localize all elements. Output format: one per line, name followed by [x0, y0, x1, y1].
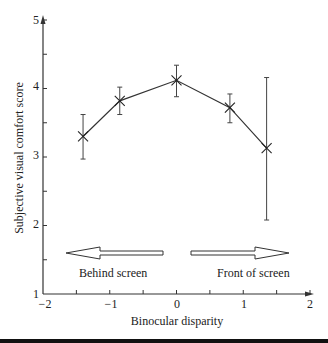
y-tick-label: 3 [33, 148, 39, 162]
data-series [78, 65, 272, 220]
x-tick-label: −1 [105, 297, 118, 311]
series-line [83, 80, 267, 148]
direction-annotations [66, 247, 289, 259]
x-tick-label: 1 [241, 297, 247, 311]
x-tick-label: 0 [174, 297, 180, 311]
y-tick-label: 2 [33, 217, 39, 231]
behind-screen-label: Behind screen [79, 266, 147, 280]
chart: −2 −1 0 1 2 1 2 3 4 5 Binocular disparit… [0, 0, 328, 343]
front-of-screen-label: Front of screen [217, 266, 290, 280]
y-tick-labels: 1 2 3 4 5 [33, 13, 39, 301]
x-tick-labels: −2 −1 0 1 2 [39, 297, 313, 311]
x-axis-title: Binocular disparity [131, 314, 223, 328]
right-arrow-icon [191, 247, 289, 259]
y-axis-title: Subjective visual comfort score [12, 82, 26, 234]
bottom-rule [0, 339, 328, 343]
y-tick-label: 5 [33, 13, 39, 27]
x-tick-label: −2 [39, 297, 52, 311]
y-tick-label: 1 [33, 287, 39, 301]
left-arrow-icon [66, 247, 163, 259]
y-tick-label: 4 [33, 79, 39, 93]
x-tick-label: 2 [307, 297, 313, 311]
